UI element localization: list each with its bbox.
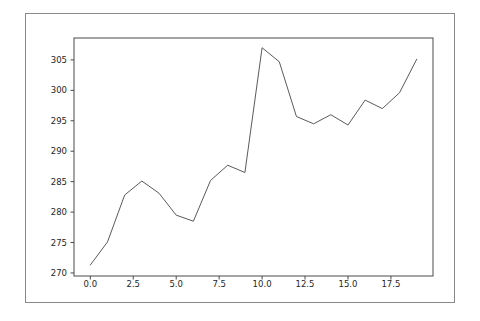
- line-chart: 0.02.55.07.510.012.515.017.5270275280285…: [0, 0, 480, 321]
- y-tick-label: 270: [51, 268, 67, 278]
- y-tick-label: 300: [51, 85, 67, 95]
- plot-area: 0.02.55.07.510.012.515.017.5270275280285…: [51, 38, 433, 289]
- y-tick-label: 280: [51, 207, 67, 217]
- x-tick-label: 5.0: [169, 279, 183, 289]
- x-tick-label: 0.0: [84, 279, 98, 289]
- x-tick-label: 15.0: [339, 279, 358, 289]
- x-tick-label: 7.5: [212, 279, 226, 289]
- y-tick-label: 290: [51, 146, 67, 156]
- plot-border: [74, 38, 433, 276]
- y-tick-label: 295: [51, 116, 67, 126]
- x-tick-label: 12.5: [296, 279, 315, 289]
- x-tick-label: 17.5: [381, 279, 400, 289]
- y-tick-label: 305: [51, 55, 67, 65]
- x-tick-label: 2.5: [126, 279, 140, 289]
- x-tick-label: 10.0: [253, 279, 272, 289]
- y-tick-label: 275: [51, 238, 67, 248]
- screenshot-canvas: 0.02.55.07.510.012.515.017.5270275280285…: [0, 0, 480, 321]
- y-tick-label: 285: [51, 177, 67, 187]
